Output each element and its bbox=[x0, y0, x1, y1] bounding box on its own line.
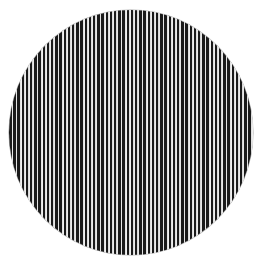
striped-circle bbox=[9, 10, 253, 255]
